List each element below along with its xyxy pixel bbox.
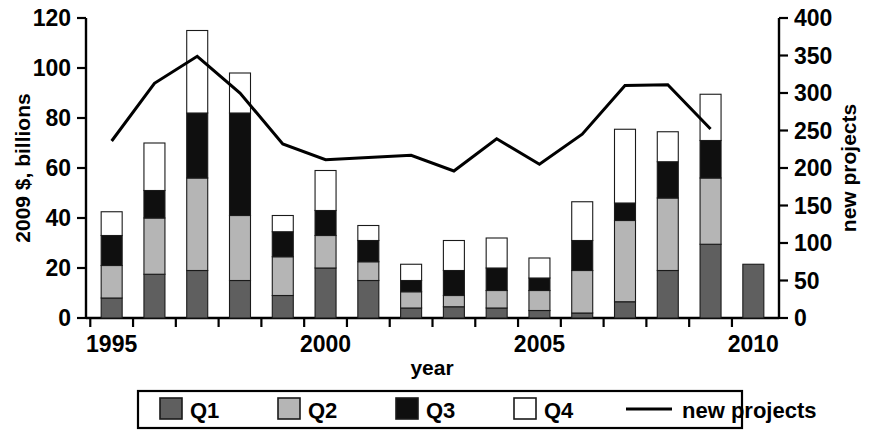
- bar-segment-q1: [144, 274, 165, 318]
- bar-segment-q2: [187, 178, 208, 271]
- x-tick-label: 1995: [86, 331, 137, 357]
- y2-tick-label: 350: [794, 43, 832, 69]
- bar-segment-q3: [358, 241, 379, 262]
- bar-segment-q1: [572, 313, 593, 318]
- bar-segment-q4: [486, 238, 507, 268]
- bar-stack: [572, 202, 593, 318]
- x-tick-label: 2005: [514, 331, 565, 357]
- bar-segment-q2: [144, 218, 165, 274]
- bar-segment-q4: [187, 31, 208, 114]
- bar-segment-q2: [443, 296, 464, 307]
- y2-tick-label: 200: [794, 155, 832, 181]
- bar-segment-q2: [657, 198, 678, 271]
- bar-segment-q4: [657, 132, 678, 162]
- bar-segment-q1: [700, 244, 721, 318]
- bar-segment-q4: [700, 94, 721, 140]
- y2-axis-ticks: 050100150200250300350400: [779, 5, 832, 331]
- bar-segment-q1: [743, 264, 764, 318]
- legend-swatch-q4: [514, 398, 536, 419]
- y2-tick-label: 50: [794, 268, 820, 294]
- plot-area: 020406080100120 050100150200250300350400…: [33, 5, 833, 357]
- bar-stack: [101, 212, 122, 318]
- bar-stack: [401, 264, 422, 318]
- legend-swatch-q2: [278, 398, 300, 419]
- stacked-bar-with-line-chart: 2009 $, billions new projects year 02040…: [0, 0, 875, 430]
- bar-segment-q2: [529, 291, 550, 311]
- bar-segment-q3: [230, 113, 251, 216]
- bar-segment-q4: [572, 202, 593, 241]
- bar-segment-q2: [615, 221, 636, 302]
- bar-segment-q4: [401, 264, 422, 280]
- bar-segment-q3: [615, 203, 636, 221]
- bar-stack: [358, 226, 379, 319]
- x-tick-label: 2000: [300, 331, 351, 357]
- bar-segment-q1: [187, 271, 208, 319]
- x-axis-ticks: 1995200020052010: [86, 318, 779, 357]
- bar-segment-q3: [443, 271, 464, 296]
- bar-stack: [230, 73, 251, 318]
- bar-segment-q3: [315, 211, 336, 236]
- bar-segment-q4: [144, 143, 165, 191]
- bar-stack: [486, 238, 507, 318]
- y2-axis-title: new projects: [837, 104, 860, 232]
- bar-segment-q1: [657, 271, 678, 319]
- x-axis-title: year: [410, 356, 453, 379]
- bar-segment-q1: [358, 281, 379, 319]
- legend-label-q1: Q1: [190, 398, 219, 423]
- y-tick-label: 20: [45, 255, 71, 281]
- x-tick-label: 2010: [728, 331, 779, 357]
- bar-segment-q3: [572, 241, 593, 271]
- y-tick-label: 80: [45, 105, 71, 131]
- bar-segment-q3: [272, 232, 293, 257]
- bar-segment-q4: [272, 216, 293, 232]
- y2-tick-label: 100: [794, 230, 832, 256]
- bar-segment-q1: [101, 298, 122, 318]
- bar-segment-q2: [572, 271, 593, 314]
- bar-stack: [743, 264, 764, 318]
- bar-segment-q2: [358, 262, 379, 281]
- bar-segment-q4: [615, 129, 636, 203]
- y-tick-label: 60: [45, 155, 71, 181]
- bar-segment-q1: [486, 308, 507, 318]
- y-tick-label: 40: [45, 205, 71, 231]
- chart-legend: Q1Q2Q3Q4new projects: [138, 391, 816, 428]
- bar-segment-q3: [529, 278, 550, 291]
- y2-tick-label: 0: [794, 305, 807, 331]
- bar-segment-q3: [144, 191, 165, 219]
- bar-stack: [443, 241, 464, 319]
- bar-stack: [529, 258, 550, 318]
- bar-stack: [315, 171, 336, 319]
- bar-segment-q3: [187, 113, 208, 178]
- y2-tick-label: 250: [794, 118, 832, 144]
- bar-segment-q1: [443, 307, 464, 318]
- bar-segment-q4: [101, 212, 122, 236]
- y-axis-title: 2009 $, billions: [11, 93, 34, 242]
- bar-segment-q1: [230, 281, 251, 319]
- legend-label-q2: Q2: [308, 398, 337, 423]
- bar-segment-q2: [700, 178, 721, 244]
- bar-segment-q2: [101, 266, 122, 299]
- legend-label-q3: Q3: [426, 398, 455, 423]
- bar-stack: [615, 129, 636, 318]
- bar-segment-q4: [358, 226, 379, 241]
- bar-segment-q4: [315, 171, 336, 211]
- y-tick-label: 0: [58, 305, 71, 331]
- bar-segment-q3: [700, 141, 721, 179]
- chart-figure: 2009 $, billions new projects year 02040…: [0, 0, 875, 430]
- bar-stack: [187, 31, 208, 319]
- bar-group: [101, 31, 764, 319]
- bar-segment-q2: [315, 236, 336, 269]
- y-tick-label: 100: [33, 55, 71, 81]
- legend-label-q4: Q4: [544, 398, 574, 423]
- bar-segment-q1: [315, 268, 336, 318]
- bar-stack: [657, 132, 678, 318]
- bar-segment-q2: [272, 257, 293, 296]
- bar-segment-q2: [401, 292, 422, 308]
- legend-swatch-q1: [160, 398, 182, 419]
- bar-stack: [144, 143, 165, 318]
- bar-segment-q3: [657, 162, 678, 198]
- y2-tick-label: 400: [794, 5, 832, 31]
- bar-segment-q3: [401, 281, 422, 292]
- y-axis-ticks: 020406080100120: [33, 5, 86, 331]
- legend-swatch-q3: [396, 398, 418, 419]
